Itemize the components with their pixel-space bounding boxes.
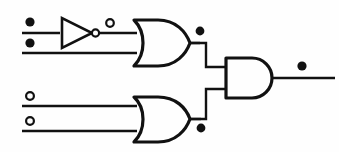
- wire-or-top-to-and: [190, 43, 226, 67]
- not-gate-bubble-icon: [92, 29, 99, 36]
- or-gate-top-body-icon: [134, 20, 190, 66]
- open-dot-icon-input-3: [26, 92, 34, 100]
- and-gate-body-icon: [226, 58, 272, 98]
- circuit-canvas-svg: [0, 0, 339, 152]
- and-gate: [226, 58, 272, 98]
- logic-circuit-diagram: [0, 0, 339, 152]
- input-wires: [22, 33, 137, 131]
- or-gate-bottom-body-icon: [134, 97, 190, 142]
- open-dot-icon-input-4: [26, 117, 34, 125]
- circuit-output: [272, 61, 335, 78]
- not-gate: [62, 18, 137, 48]
- wire-or-bottom-to-and: [190, 89, 226, 119]
- filled-dot-icon-output: [297, 61, 306, 70]
- filled-dot-icon-or-bottom-output: [197, 124, 206, 133]
- filled-dot-icon-input-2: [25, 38, 34, 47]
- not-gate-triangle-icon: [62, 18, 92, 48]
- filled-dot-icon-input-1: [25, 17, 34, 26]
- open-dot-icon-inverter-tap: [106, 19, 114, 27]
- filled-dot-icon-or-top-output: [196, 27, 205, 36]
- interconnect-wires: [190, 43, 226, 119]
